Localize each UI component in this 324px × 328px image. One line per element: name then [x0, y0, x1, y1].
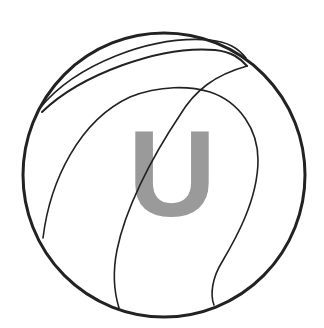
- seam-inner-arc: [43, 88, 258, 305]
- ball-outline: [23, 33, 305, 317]
- volleyball-icon: [0, 0, 324, 328]
- seam-diagonal: [114, 66, 247, 308]
- volleyball-logo: U: [0, 0, 324, 328]
- seam-top: [42, 49, 247, 112]
